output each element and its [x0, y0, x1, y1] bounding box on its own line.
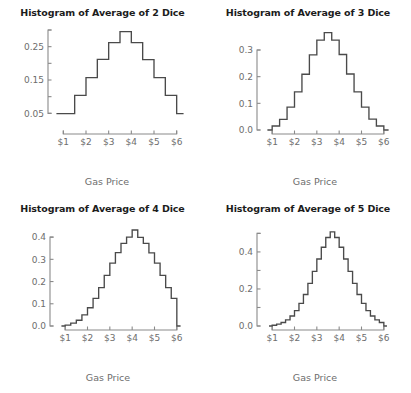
- x-tick-label: $6: [378, 137, 390, 147]
- panel-hist-3-dice: Histogram of Average of 3 Dice 0.00.10.2…: [205, 0, 411, 196]
- panel-hist-5-dice: Histogram of Average of 5 Dice 0.00.20.4…: [205, 196, 411, 393]
- x-tick-label: $5: [149, 333, 160, 343]
- y-tick-label: 0.3: [32, 255, 46, 265]
- y-tick-label: 0.4: [239, 247, 254, 257]
- y-tick-label: 0.4: [32, 232, 47, 242]
- y-tick-label: 0.25: [24, 42, 44, 52]
- histogram-svg-hist-3-dice: 0.00.10.20.3$1$2$3$4$5$6: [231, 24, 405, 182]
- x-tick-label: $2: [289, 137, 300, 147]
- histogram-svg-hist-5-dice: 0.00.20.4$1$2$3$4$5$6: [231, 220, 405, 378]
- y-tick-label: 0.1: [32, 299, 46, 309]
- histogram-outline: [268, 33, 388, 130]
- y-tick-label: 0.15: [24, 75, 44, 85]
- x-tick-label: $3: [311, 333, 322, 343]
- x-tick-label: $4: [126, 137, 138, 147]
- y-tick-label: 0.2: [32, 277, 46, 287]
- x-tick-label: $2: [80, 137, 91, 147]
- y-tick-label: 0.1: [239, 99, 253, 109]
- x-tick-label: $5: [356, 333, 367, 343]
- x-tick-label: $3: [103, 137, 114, 147]
- plot-area-5-dice: 0.00.20.4$1$2$3$4$5$6: [231, 220, 399, 348]
- y-tick-label: 0.05: [24, 109, 44, 119]
- panel-title-3-dice: Histogram of Average of 3 Dice: [205, 7, 411, 18]
- x-axis-label-4-dice: Gas Price: [24, 372, 192, 383]
- panel-title-4-dice: Histogram of Average of 4 Dice: [0, 203, 205, 214]
- histogram-outline: [270, 232, 387, 326]
- y-tick-label: 0.2: [239, 284, 253, 294]
- x-tick-label: $1: [266, 333, 277, 343]
- x-tick-label: $3: [311, 137, 322, 147]
- x-tick-label: $5: [148, 137, 159, 147]
- x-tick-label: $2: [289, 333, 300, 343]
- histogram-outline: [62, 230, 180, 326]
- y-tick-label: 0.0: [239, 125, 254, 135]
- x-tick-label: $4: [333, 137, 345, 147]
- y-tick-label: 0.3: [239, 45, 253, 55]
- x-tick-label: $6: [171, 333, 183, 343]
- x-tick-label: $3: [104, 333, 115, 343]
- panel-title-2-dice: Histogram of Average of 2 Dice: [0, 7, 205, 18]
- x-tick-label: $6: [171, 137, 183, 147]
- plot-area-3-dice: 0.00.10.20.3$1$2$3$4$5$6: [231, 24, 399, 152]
- histogram-outline: [57, 32, 183, 114]
- x-tick-label: $1: [59, 333, 70, 343]
- panel-hist-4-dice: Histogram of Average of 4 Dice 0.00.10.2…: [0, 196, 205, 393]
- histogram-svg-hist-4-dice: 0.00.10.20.30.4$1$2$3$4$5$6: [24, 220, 198, 378]
- x-tick-label: $6: [378, 333, 390, 343]
- histogram-svg-hist-2-dice: 0.050.150.25$1$2$3$4$5$6: [22, 24, 198, 182]
- x-axis-label-5-dice: Gas Price: [231, 372, 399, 383]
- x-tick-label: $2: [82, 333, 93, 343]
- x-tick-label: $4: [333, 333, 345, 343]
- x-axis-label-2-dice: Gas Price: [22, 176, 192, 187]
- histogram-figure-grid: Histogram of Average of 2 Dice 0.050.150…: [0, 0, 411, 393]
- panel-hist-2-dice: Histogram of Average of 2 Dice 0.050.150…: [0, 0, 205, 196]
- x-tick-label: $4: [126, 333, 138, 343]
- y-tick-label: 0.0: [32, 321, 47, 331]
- plot-area-2-dice: 0.050.150.25$1$2$3$4$5$6: [22, 24, 192, 152]
- x-tick-label: $5: [356, 137, 367, 147]
- panel-title-5-dice: Histogram of Average of 5 Dice: [205, 203, 411, 214]
- x-tick-label: $1: [266, 137, 277, 147]
- x-axis-label-3-dice: Gas Price: [231, 176, 399, 187]
- plot-area-4-dice: 0.00.10.20.30.4$1$2$3$4$5$6: [24, 220, 192, 348]
- y-tick-label: 0.0: [239, 321, 254, 331]
- x-tick-label: $1: [58, 137, 69, 147]
- y-tick-label: 0.2: [239, 72, 253, 82]
